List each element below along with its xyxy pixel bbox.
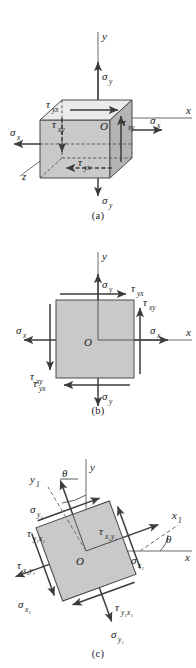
- svg-text:x₁y₁: x₁y₁: [104, 532, 117, 541]
- panel-c-rotated-square: x y x 1 y 1 θ θ O σ y₁ σ y₁ σ: [0, 425, 196, 668]
- x-axis-label: x: [185, 104, 191, 116]
- svg-text:x₁: x₁: [24, 605, 31, 614]
- origin-label: O: [84, 336, 92, 348]
- svg-text:y: y: [108, 77, 113, 86]
- svg-text:xy: xy: [57, 125, 65, 134]
- y-axis-label: y: [101, 30, 107, 42]
- svg-text:x₁y₁: x₁y₁: [22, 566, 35, 575]
- caption-a: (a): [0, 210, 196, 221]
- svg-text:xy: xy: [35, 377, 43, 386]
- sigma-y-bottom-label: σ y: [102, 194, 113, 210]
- square-element: [56, 300, 134, 378]
- svg-text:σ: σ: [102, 390, 108, 402]
- sigma-y1-upper-label: σ y₁: [30, 503, 43, 519]
- svg-text:yx: yx: [51, 105, 59, 114]
- caption-b: (b): [0, 405, 196, 416]
- y1-axis-label: y 1: [29, 473, 40, 489]
- z-axis-label: z: [21, 170, 27, 182]
- svg-text:xy: xy: [148, 303, 156, 312]
- sigma-y1-lower-label: σ y₁: [111, 628, 124, 644]
- svg-text:y: y: [108, 201, 113, 210]
- tau-y1x1-lower-label: τ y₁x₁: [115, 601, 133, 617]
- origin-label: O: [100, 120, 108, 132]
- theta-label-y: θ: [62, 467, 68, 479]
- panel-c-svg: x y x 1 y 1 θ θ O σ y₁ σ y₁ σ: [0, 425, 196, 668]
- svg-text:1: 1: [178, 516, 182, 525]
- svg-text:xy: xy: [127, 123, 135, 132]
- stress-element-figure: x y z O σ y σ y σ x σ x τ yx: [0, 0, 196, 668]
- svg-text:τ: τ: [17, 559, 22, 571]
- svg-text:σ: σ: [102, 278, 108, 290]
- svg-text:y₁x₁: y₁x₁: [32, 534, 45, 543]
- svg-text:y₁: y₁: [117, 635, 124, 644]
- sigma-y-top-label: σ y: [102, 70, 113, 86]
- svg-text:σ: σ: [102, 194, 108, 206]
- theta-label-x: θ: [166, 533, 172, 545]
- svg-text:y₁x₁: y₁x₁: [120, 608, 133, 617]
- svg-text:σ: σ: [102, 70, 108, 82]
- tau-x1y1-left-label: τ x₁y₁: [17, 559, 35, 575]
- sigma-x-right-label: σ x: [150, 114, 161, 130]
- x1-axis-label: x 1: [171, 509, 182, 525]
- svg-text:σ: σ: [111, 628, 117, 640]
- panel-b-svg: x y O σ y σ y σ x σ x τ yx: [0, 230, 196, 425]
- svg-text:τ: τ: [46, 98, 51, 110]
- sigma-x1-left-label: σ x₁: [18, 598, 31, 614]
- x-axis-label: x: [185, 326, 191, 338]
- sigma-x-left-label: σ x: [16, 324, 27, 340]
- svg-text:σ: σ: [16, 324, 22, 336]
- svg-text:x: x: [156, 331, 161, 340]
- caption-c: (c): [0, 648, 196, 659]
- svg-text:yx: yx: [83, 163, 91, 172]
- svg-text:y: y: [108, 285, 113, 294]
- svg-text:x: x: [171, 509, 177, 521]
- svg-text:x: x: [16, 133, 21, 142]
- origin-label: O: [76, 555, 84, 567]
- svg-text:y₁: y₁: [36, 510, 43, 519]
- svg-text:x₁: x₁: [137, 561, 144, 570]
- svg-text:y: y: [29, 473, 35, 485]
- svg-text:x: x: [156, 121, 161, 130]
- tau-yx-top-label: τ yx: [46, 98, 59, 114]
- tau-xy-right-label: τ xy: [143, 296, 156, 312]
- svg-text:σ: σ: [10, 126, 16, 138]
- x-axis-label: x: [184, 551, 190, 563]
- svg-text:1: 1: [36, 480, 40, 489]
- panel-a-3d-cube: x y z O σ y σ y σ x σ x τ yx: [0, 0, 196, 230]
- sigma-x-left-label: σ x: [10, 126, 21, 142]
- svg-text:σ: σ: [18, 598, 24, 610]
- svg-text:τ: τ: [131, 282, 136, 294]
- y-axis-label: y: [89, 461, 95, 473]
- svg-text:σ: σ: [150, 114, 156, 126]
- svg-text:σ: σ: [131, 554, 137, 566]
- svg-text:τ: τ: [143, 296, 148, 308]
- svg-text:τ: τ: [27, 527, 32, 539]
- y-axis-label: y: [101, 250, 107, 262]
- sigma-x-right-label: σ x: [150, 324, 161, 340]
- svg-text:x: x: [22, 331, 27, 340]
- sigma-y-bottom-label: σ y: [102, 390, 113, 406]
- tau-xy-left-label: τ xy: [30, 370, 43, 386]
- svg-text:σ: σ: [30, 503, 36, 515]
- panel-b-2d-square: x y O σ y σ y σ x σ x τ yx: [0, 230, 196, 425]
- panel-a-svg: x y z O σ y σ y σ x σ x τ yx: [0, 0, 196, 230]
- sigma-y-top-label: σ y: [102, 278, 113, 294]
- svg-text:τ: τ: [115, 601, 120, 613]
- svg-text:σ: σ: [150, 324, 156, 336]
